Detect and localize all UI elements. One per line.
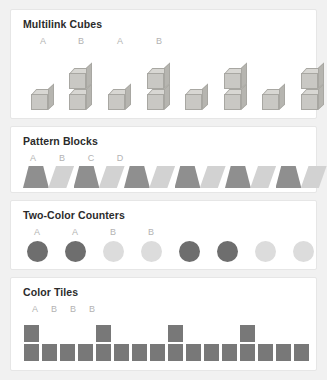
cube-block[interactable]: [301, 89, 324, 110]
counter-a[interactable]: [65, 241, 86, 262]
unit-label-b-2: B: [106, 225, 120, 239]
pattern-block-light[interactable]: [149, 166, 175, 188]
color-tile[interactable]: [113, 343, 130, 362]
pattern-block-light[interactable]: [250, 166, 276, 188]
pattern-block-dark[interactable]: [175, 166, 201, 188]
pattern-block-dark[interactable]: [225, 166, 251, 188]
cube-tower-row[interactable]: [23, 48, 304, 110]
cube-block[interactable]: [108, 89, 131, 110]
color-tile[interactable]: [239, 343, 256, 362]
cube-face-front: [224, 94, 241, 110]
label-row-two-color-counters: AABB: [23, 225, 316, 239]
section-title-multilink-cubes: Multilink Cubes: [23, 18, 316, 31]
color-tile[interactable]: [41, 343, 58, 362]
cube-block[interactable]: [31, 89, 54, 110]
label-row-multilink-cubes: ABAB: [23, 34, 316, 48]
cube-face-front: [147, 94, 164, 110]
pattern-block-light[interactable]: [48, 166, 74, 188]
counter-a[interactable]: [27, 241, 48, 262]
label-row-color-tiles: ABBB: [23, 302, 316, 316]
cube-tower[interactable]: [301, 68, 324, 110]
cube-block[interactable]: [69, 89, 92, 110]
color-tile-stacked[interactable]: [239, 324, 256, 343]
unit-label-b-1: B: [55, 151, 69, 165]
pattern-manipulatives-page: Multilink Cubes ABAB Pattern Blocks ABCD…: [0, 0, 327, 380]
cube-face-side: [241, 84, 247, 110]
cube-face-front: [69, 73, 86, 89]
counter-a[interactable]: [179, 241, 200, 262]
cube-face-front: [69, 94, 86, 110]
unit-label-c-2: C: [84, 151, 98, 165]
color-tile[interactable]: [221, 343, 238, 362]
pattern-block-light[interactable]: [99, 166, 125, 188]
cube-face-side: [125, 84, 131, 110]
color-tile[interactable]: [275, 343, 292, 362]
cube-tower[interactable]: [31, 89, 54, 110]
label-row-pattern-blocks: ABCD: [23, 151, 316, 165]
cube-tower[interactable]: [224, 68, 247, 110]
counter-b[interactable]: [141, 241, 162, 262]
color-tile[interactable]: [185, 343, 202, 362]
unit-label-b-3: B: [144, 225, 158, 239]
unit-label-b-3: B: [152, 34, 166, 48]
cube-block[interactable]: [262, 89, 285, 110]
color-tile-stacked[interactable]: [167, 324, 184, 343]
unit-label-b-1: B: [74, 34, 88, 48]
cube-tower[interactable]: [69, 68, 92, 110]
section-title-color-tiles: Color Tiles: [23, 286, 316, 299]
cube-face-front: [185, 94, 202, 110]
color-tile[interactable]: [131, 343, 148, 362]
color-tile-grid[interactable]: [23, 318, 304, 362]
color-tile[interactable]: [203, 343, 220, 362]
counter-b[interactable]: [255, 241, 276, 262]
counter-b[interactable]: [103, 241, 124, 262]
unit-label-b-3: B: [85, 302, 99, 316]
color-tile[interactable]: [167, 343, 184, 362]
cube-face-front: [262, 94, 279, 110]
cube-face-front: [224, 73, 241, 89]
section-card-pattern-blocks: Pattern Blocks ABCD: [10, 126, 317, 193]
section-card-two-color-counters: Two-Color Counters AABB: [10, 200, 317, 270]
cube-face-side: [318, 84, 324, 110]
unit-label-a-0: A: [30, 225, 44, 239]
cube-face-front: [301, 73, 318, 89]
cube-block[interactable]: [147, 89, 170, 110]
pattern-block-light[interactable]: [200, 166, 226, 188]
unit-label-a-0: A: [26, 151, 40, 165]
pattern-block-dark[interactable]: [124, 166, 150, 188]
color-tile[interactable]: [257, 343, 274, 362]
pattern-block-dark[interactable]: [74, 166, 100, 188]
unit-label-a-2: A: [113, 34, 127, 48]
counter-b[interactable]: [293, 241, 314, 262]
pattern-block-strip[interactable]: [23, 166, 304, 188]
color-tile[interactable]: [59, 343, 76, 362]
cube-tower[interactable]: [108, 89, 131, 110]
pattern-block-dark[interactable]: [23, 166, 49, 188]
unit-label-a-0: A: [36, 34, 50, 48]
color-tile-stacked[interactable]: [95, 324, 112, 343]
color-tile[interactable]: [95, 343, 112, 362]
cube-block[interactable]: [224, 89, 247, 110]
cube-tower[interactable]: [185, 89, 208, 110]
counter-a[interactable]: [217, 241, 238, 262]
section-title-pattern-blocks: Pattern Blocks: [23, 135, 316, 148]
cube-face-front: [147, 73, 164, 89]
unit-label-d-3: D: [113, 151, 127, 165]
cube-face-side: [202, 84, 208, 110]
color-tile-stacked[interactable]: [23, 324, 40, 343]
color-tile[interactable]: [293, 343, 310, 362]
cube-tower[interactable]: [147, 68, 170, 110]
color-tile[interactable]: [23, 343, 40, 362]
cube-block[interactable]: [185, 89, 208, 110]
section-card-multilink-cubes: Multilink Cubes ABAB: [10, 9, 317, 119]
counter-row[interactable]: [23, 241, 304, 265]
cube-face-side: [48, 84, 54, 110]
pattern-block-dark[interactable]: [276, 166, 302, 188]
unit-label-b-1: B: [47, 302, 61, 316]
color-tile[interactable]: [77, 343, 94, 362]
cube-face-front: [108, 94, 125, 110]
cube-face-side: [86, 84, 92, 110]
color-tile[interactable]: [149, 343, 166, 362]
pattern-block-light[interactable]: [301, 166, 327, 188]
cube-tower[interactable]: [262, 89, 285, 110]
